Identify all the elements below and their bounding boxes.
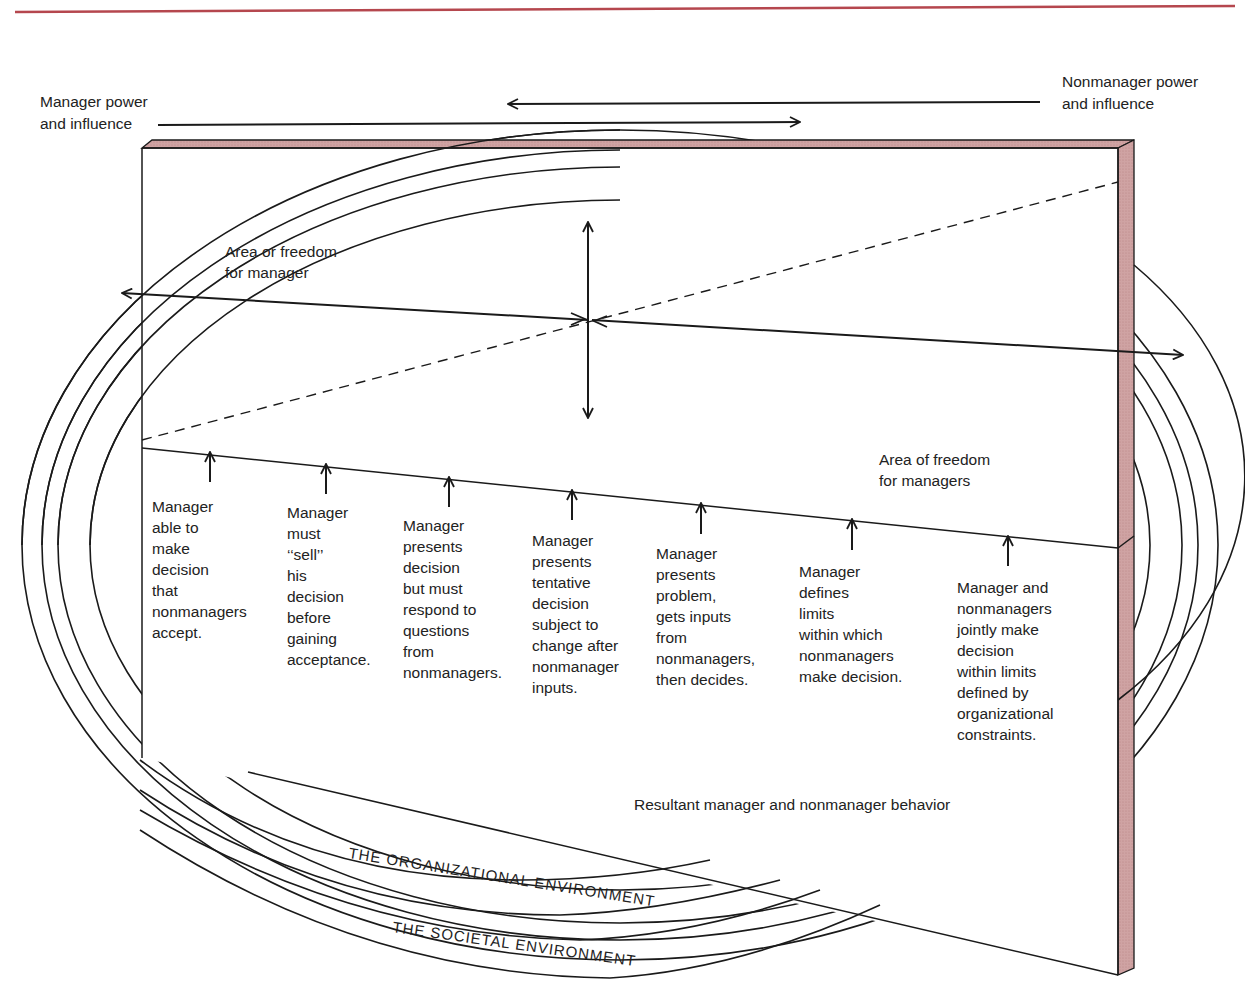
- svg-text:change after: change after: [532, 637, 618, 654]
- svg-text:problem,: problem,: [656, 587, 716, 604]
- svg-text:decision: decision: [957, 642, 1014, 659]
- svg-text:decision: decision: [287, 588, 344, 605]
- svg-text:decision: decision: [403, 559, 460, 576]
- svg-text:nonmanagers: nonmanagers: [152, 603, 247, 620]
- svg-text:must: must: [287, 525, 321, 542]
- leadership-continuum-diagram: Manager power and influence Nonmanager p…: [0, 0, 1245, 999]
- svg-text:accept.: accept.: [152, 624, 202, 641]
- svg-text:and influence: and influence: [1062, 95, 1154, 112]
- societal-environment-label: THE SOCIETAL ENVIRONMENT: [392, 918, 638, 969]
- svg-text:‘‘sell’’: ‘‘sell’’: [287, 546, 323, 563]
- header-rule: [15, 6, 1235, 12]
- svg-text:for managers: for managers: [879, 472, 971, 489]
- svg-text:decision: decision: [152, 561, 209, 578]
- svg-text:defined by: defined by: [957, 684, 1029, 701]
- svg-text:Manager: Manager: [152, 498, 213, 515]
- nonmanager-power-label: Nonmanager power and influence: [1062, 73, 1198, 112]
- svg-text:presents: presents: [656, 566, 716, 583]
- svg-text:for manager: for manager: [225, 264, 309, 281]
- svg-text:Nonmanager power: Nonmanager power: [1062, 73, 1198, 90]
- svg-text:Area or freedom: Area or freedom: [225, 243, 337, 260]
- svg-text:and influence: and influence: [40, 115, 132, 132]
- svg-text:Manager: Manager: [287, 504, 348, 521]
- svg-text:then decides.: then decides.: [656, 671, 748, 688]
- svg-text:but must: but must: [403, 580, 463, 597]
- svg-text:Manager: Manager: [532, 532, 593, 549]
- svg-text:Manager: Manager: [656, 545, 717, 562]
- svg-text:gets inputs: gets inputs: [656, 608, 731, 625]
- svg-text:subject to: subject to: [532, 616, 598, 633]
- svg-text:nonmanagers.: nonmanagers.: [403, 664, 502, 681]
- svg-text:gaining: gaining: [287, 630, 337, 647]
- svg-text:nonmanagers,: nonmanagers,: [656, 650, 755, 667]
- svg-text:decision: decision: [532, 595, 589, 612]
- nonmanager-power-arrow: [508, 102, 1040, 104]
- svg-text:within limits: within limits: [956, 663, 1036, 680]
- svg-text:presents: presents: [403, 538, 463, 555]
- svg-text:his: his: [287, 567, 307, 584]
- svg-text:that: that: [152, 582, 179, 599]
- svg-text:questions: questions: [403, 622, 470, 639]
- svg-text:respond to: respond to: [403, 601, 476, 618]
- svg-text:Manager: Manager: [403, 517, 464, 534]
- resultant-behavior-label: Resultant manager and nonmanager behavio…: [634, 796, 950, 813]
- svg-text:jointly make: jointly make: [956, 621, 1039, 638]
- svg-text:inputs.: inputs.: [532, 679, 578, 696]
- svg-text:make: make: [152, 540, 190, 557]
- svg-text:within which: within which: [798, 626, 883, 643]
- manager-power-label: Manager power and influence: [40, 93, 148, 132]
- svg-text:tentative: tentative: [532, 574, 591, 591]
- svg-text:make decision.: make decision.: [799, 668, 902, 685]
- svg-text:Manager power: Manager power: [40, 93, 148, 110]
- svg-text:limits: limits: [799, 605, 835, 622]
- svg-text:from: from: [656, 629, 687, 646]
- svg-text:organizational: organizational: [957, 705, 1054, 722]
- svg-text:nonmanager: nonmanager: [532, 658, 619, 675]
- svg-text:from: from: [403, 643, 434, 660]
- svg-text:nonmanagers: nonmanagers: [799, 647, 894, 664]
- svg-text:Area of freedom: Area of freedom: [879, 451, 990, 468]
- svg-text:constraints.: constraints.: [957, 726, 1036, 743]
- svg-text:defines: defines: [799, 584, 849, 601]
- svg-text:before: before: [287, 609, 331, 626]
- svg-text:able to: able to: [152, 519, 199, 536]
- svg-text:acceptance.: acceptance.: [287, 651, 371, 668]
- svg-text:Manager and: Manager and: [957, 579, 1048, 596]
- panel-right-edge: [1118, 140, 1134, 975]
- manager-power-arrow: [158, 122, 800, 125]
- svg-text:nonmanagers: nonmanagers: [957, 600, 1052, 617]
- svg-text:presents: presents: [532, 553, 592, 570]
- svg-text:Manager: Manager: [799, 563, 860, 580]
